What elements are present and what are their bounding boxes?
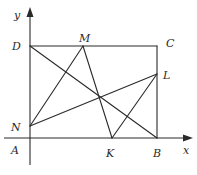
point-label-B: B — [152, 147, 161, 160]
y-axis-label: y — [13, 9, 21, 22]
segment-DB — [30, 46, 157, 138]
y-axis-arrow-icon — [27, 7, 34, 17]
point-label-D: D — [11, 40, 21, 53]
point-label-K: K — [105, 147, 115, 160]
geometry-figure: y x D M C L N A K B — [0, 0, 197, 175]
point-label-M: M — [78, 32, 91, 45]
segments — [30, 46, 157, 138]
segment-NM — [30, 46, 83, 126]
axes — [4, 14, 186, 165]
point-label-C: C — [166, 37, 175, 50]
x-axis-arrow-icon — [183, 135, 193, 142]
segment-MK — [83, 46, 112, 138]
x-axis-label: x — [183, 144, 190, 157]
point-label-N: N — [10, 121, 21, 134]
point-label-L: L — [162, 69, 170, 82]
segment-NL — [30, 74, 157, 126]
point-label-A: A — [10, 144, 19, 157]
